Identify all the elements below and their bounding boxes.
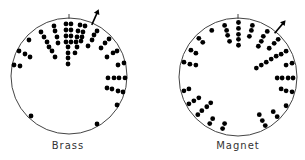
- magnet-dot: [236, 32, 241, 37]
- magnet-dots: [182, 20, 296, 131]
- magnet-dot: [276, 37, 281, 42]
- magnet-dot: [204, 104, 209, 109]
- magnet-dot: [250, 23, 255, 28]
- magnet-dot: [284, 103, 289, 108]
- brass-dot: [106, 76, 111, 81]
- brass-dot: [18, 64, 23, 69]
- brass-dot: [78, 23, 83, 28]
- brass-dot: [23, 52, 28, 57]
- brass-dot: [75, 35, 80, 40]
- brass-dot: [116, 89, 121, 94]
- magnet-dot: [191, 98, 196, 103]
- magnet-panel: [179, 14, 297, 136]
- brass-dot: [116, 63, 121, 68]
- magnet-dot: [274, 54, 279, 59]
- magnet-dot: [271, 109, 276, 114]
- brass-dot: [27, 38, 32, 43]
- magnet-dot: [236, 37, 241, 42]
- brass-dot: [66, 62, 71, 67]
- brass-dot: [86, 44, 91, 49]
- magnet-dot: [259, 39, 264, 44]
- brass-dot: [69, 34, 74, 39]
- brass-dot: [64, 28, 69, 33]
- brass-direction-arrow-icon: [92, 9, 100, 25]
- magnet-dot: [249, 28, 254, 33]
- brass-dot: [66, 45, 71, 50]
- brass-dot: [75, 45, 80, 50]
- brass-dot: [80, 35, 85, 40]
- magnet-dot: [196, 95, 201, 100]
- magnet-dot: [275, 76, 280, 81]
- magnet-dot: [209, 28, 214, 33]
- magnet-dot: [280, 76, 285, 81]
- magnet-dot: [265, 29, 270, 34]
- brass-dot: [50, 49, 55, 54]
- brass-dot: [112, 76, 117, 81]
- magnet-dot: [291, 76, 296, 81]
- brass-dot: [83, 24, 88, 29]
- brass-dot: [95, 122, 100, 127]
- brass-dot: [69, 22, 74, 27]
- magnet-dot: [196, 36, 201, 41]
- brass-dot: [55, 35, 60, 40]
- magnet-dot: [261, 34, 266, 39]
- magnet-dot: [222, 23, 227, 28]
- brass-dot: [107, 37, 112, 42]
- magnet-dot: [189, 48, 194, 53]
- brass-dot: [12, 63, 17, 68]
- magnet-dot: [227, 39, 232, 44]
- magnet-dot: [260, 118, 265, 123]
- brass-dot: [105, 55, 110, 60]
- magnet-label: Magnet: [216, 140, 260, 151]
- magnet-dot: [284, 63, 289, 68]
- brass-dot: [99, 46, 104, 51]
- magnet-dot: [207, 121, 212, 126]
- magnet-dot: [264, 60, 269, 65]
- brass-dot: [52, 24, 57, 29]
- diagram-canvas: [0, 0, 305, 160]
- magnet-dot: [187, 87, 192, 92]
- brass-dot: [110, 87, 115, 92]
- magnet-dot: [236, 43, 241, 48]
- brass-dot: [122, 61, 127, 66]
- magnet-dot: [187, 101, 192, 106]
- magnet-dot: [224, 28, 229, 33]
- brass-dot: [53, 29, 58, 34]
- magnet-dot: [195, 112, 200, 117]
- brass-dot: [74, 40, 79, 45]
- brass-dot: [66, 51, 71, 56]
- magnet-dot: [200, 40, 205, 45]
- brass-dot: [53, 55, 58, 60]
- arrow-shaft: [275, 23, 284, 34]
- brass-dot: [123, 76, 128, 81]
- brass-panel: [11, 9, 127, 134]
- magnet-dot: [236, 20, 241, 25]
- brass-dot: [29, 114, 34, 119]
- magnet-dot: [236, 26, 241, 31]
- magnet-dot: [279, 52, 284, 57]
- brass-dot: [56, 41, 61, 46]
- magnet-dot: [182, 88, 187, 93]
- magnet-dot: [284, 49, 289, 54]
- brass-dot: [95, 29, 100, 34]
- magnet-dot: [275, 114, 280, 119]
- brass-dot: [79, 39, 84, 44]
- brass-dot: [73, 51, 78, 56]
- magnet-dot: [220, 126, 225, 131]
- brass-dot: [39, 30, 44, 35]
- brass-dot: [45, 40, 50, 45]
- magnet-dot: [286, 76, 291, 81]
- brass-label: Brass: [52, 140, 85, 151]
- brass-dot: [69, 40, 74, 45]
- magnet-dot: [188, 62, 193, 67]
- brass-dot: [111, 51, 116, 56]
- brass-dot: [103, 41, 108, 46]
- magnet-dot: [256, 44, 261, 49]
- brass-dot: [28, 55, 33, 60]
- magnet-dot: [272, 41, 277, 46]
- magnet-dot: [257, 112, 262, 117]
- brass-dot: [47, 45, 52, 50]
- brass-dot: [117, 76, 122, 81]
- brass-dot: [66, 56, 71, 61]
- magnet-dot: [284, 88, 289, 93]
